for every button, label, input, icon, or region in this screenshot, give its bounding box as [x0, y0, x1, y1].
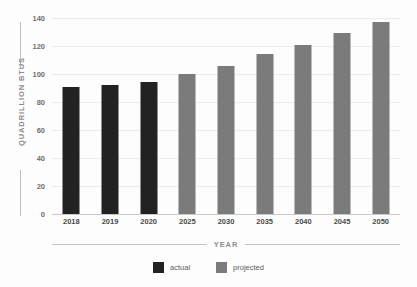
bar-slot — [361, 18, 400, 214]
y-axis-tick-label: 0 — [41, 210, 45, 219]
bar-slot — [129, 18, 168, 214]
bar — [217, 66, 234, 214]
x-axis-tick-label: 2018 — [52, 217, 91, 226]
bar-slot — [284, 18, 323, 214]
bar — [179, 74, 196, 214]
legend-item: projected — [216, 262, 264, 273]
bar — [140, 82, 157, 214]
x-axis-tick-label: 2045 — [323, 217, 362, 226]
y-axis-tick-label: 60 — [37, 126, 45, 135]
x-axis-tick-label: 2025 — [168, 217, 207, 226]
x-axis-tick-label: 2020 — [129, 217, 168, 226]
bars — [52, 18, 400, 214]
bar-slot — [91, 18, 130, 214]
x-axis-tick-label: 2035 — [245, 217, 284, 226]
bar — [333, 33, 350, 214]
bar-slot — [168, 18, 207, 214]
y-axis-tick-label: 80 — [37, 98, 45, 107]
y-axis-tick-label: 20 — [37, 182, 45, 191]
bar-slot — [207, 18, 246, 214]
x-axis-tick-label: 2050 — [361, 217, 400, 226]
plot-area: 020406080100120140 — [52, 18, 400, 214]
legend-swatch-icon — [216, 262, 227, 273]
y-axis-tick-label: 140 — [32, 14, 45, 23]
y-axis-tick-label: 120 — [32, 42, 45, 51]
x-axis-title-row: YEAR — [52, 239, 400, 249]
bar-slot — [52, 18, 91, 214]
bar-slot — [323, 18, 362, 214]
bar — [372, 22, 389, 214]
x-axis-title-rule-right — [245, 244, 400, 245]
bar — [101, 85, 118, 214]
x-axis-tick-label: 2019 — [91, 217, 130, 226]
x-axis-tick-label: 2030 — [207, 217, 246, 226]
y-axis-title-rule-bottom — [20, 170, 21, 216]
bar-chart-figure: QUADRILLION BTUS 020406080100120140 2018… — [0, 0, 417, 287]
y-axis-tick-label: 40 — [37, 154, 45, 163]
gridline — [52, 214, 400, 215]
bar — [256, 54, 273, 214]
legend-swatch-icon — [153, 262, 164, 273]
legend-label: actual — [170, 263, 190, 272]
x-axis-title: YEAR — [214, 240, 238, 249]
bar — [295, 45, 312, 214]
x-axis-title-rule-left — [52, 244, 207, 245]
bar — [63, 87, 80, 214]
x-axis-tick-labels: 201820192020202520302035204020452050 — [52, 217, 400, 231]
legend-label: projected — [233, 263, 264, 272]
y-axis-title: QUADRILLION BTUS — [17, 37, 26, 167]
x-axis-tick-label: 2040 — [284, 217, 323, 226]
chart-legend: actualprojected — [0, 262, 417, 273]
bar-slot — [245, 18, 284, 214]
legend-item: actual — [153, 262, 190, 273]
y-axis-tick-label: 100 — [32, 70, 45, 79]
